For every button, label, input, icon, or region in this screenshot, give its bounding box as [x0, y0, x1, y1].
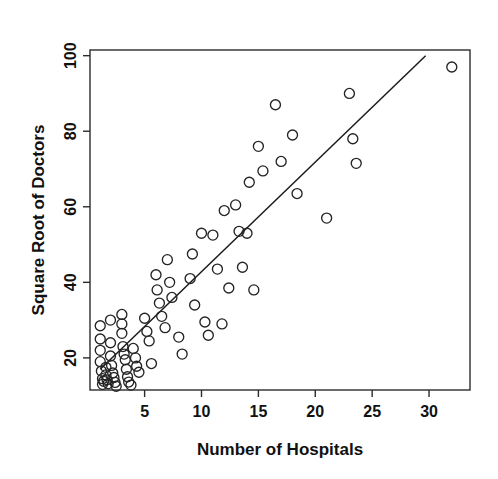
data-point — [196, 228, 206, 238]
data-point — [126, 380, 136, 390]
y-tick-label: 60 — [62, 198, 79, 216]
data-point — [157, 311, 167, 321]
data-point — [208, 230, 218, 240]
y-axis-title: Square Root of Doctors — [29, 125, 48, 316]
x-tick-label: 25 — [363, 403, 381, 420]
data-point — [95, 345, 105, 355]
data-point — [117, 319, 127, 329]
data-point — [217, 319, 227, 329]
data-point — [144, 336, 154, 346]
data-point — [351, 158, 361, 168]
data-point — [270, 100, 280, 110]
data-point — [165, 277, 175, 287]
data-point — [447, 62, 457, 72]
data-point — [187, 249, 197, 259]
data-point — [212, 264, 222, 274]
data-point — [288, 130, 298, 140]
data-point — [151, 270, 161, 280]
data-point — [160, 323, 170, 333]
scatter-plot-figure: Square Root of Doctors Number of Hospita… — [0, 0, 498, 479]
data-point — [95, 334, 105, 344]
data-point — [120, 355, 130, 365]
data-point — [146, 359, 156, 369]
fit-line — [100, 56, 425, 370]
x-axis-title: Number of Hospitals — [197, 440, 363, 459]
data-point — [95, 321, 105, 331]
data-point — [134, 367, 144, 377]
data-points — [95, 62, 457, 391]
data-point — [162, 255, 172, 265]
y-tick-label: 20 — [62, 349, 79, 367]
data-point — [224, 283, 234, 293]
data-point — [348, 134, 358, 144]
data-point — [95, 357, 105, 367]
regression-line — [100, 56, 425, 370]
data-point — [292, 189, 302, 199]
x-axis-title-text: Number of Hospitals — [197, 440, 363, 459]
data-point — [258, 166, 268, 176]
x-tick-label: 10 — [193, 403, 211, 420]
data-point — [344, 88, 354, 98]
plot-frame — [90, 50, 470, 390]
data-point — [117, 309, 127, 319]
x-tick-label: 30 — [420, 403, 438, 420]
data-point — [231, 200, 241, 210]
y-tick-label: 100 — [62, 42, 79, 69]
data-point — [203, 330, 213, 340]
data-point — [117, 328, 127, 338]
data-point — [174, 332, 184, 342]
data-point — [154, 298, 164, 308]
data-point — [128, 343, 138, 353]
plot-canvas: Square Root of Doctors Number of Hospita… — [0, 0, 498, 479]
data-point — [276, 156, 286, 166]
data-point — [105, 338, 115, 348]
data-point — [142, 326, 152, 336]
x-axis-ticks: 51015202530 — [140, 390, 438, 420]
y-axis-ticks: 20406080100 — [62, 42, 90, 367]
data-point — [200, 317, 210, 327]
data-point — [219, 206, 229, 216]
x-tick-label: 5 — [140, 403, 149, 420]
data-point — [237, 262, 247, 272]
data-point — [152, 285, 162, 295]
data-point — [190, 300, 200, 310]
data-point — [253, 141, 263, 151]
y-tick-label: 80 — [62, 122, 79, 140]
data-point — [140, 313, 150, 323]
data-point — [105, 315, 115, 325]
data-point — [322, 213, 332, 223]
x-tick-label: 20 — [306, 403, 324, 420]
data-point — [249, 285, 259, 295]
data-point — [244, 177, 254, 187]
y-axis-title-text: Square Root of Doctors — [29, 125, 48, 316]
data-point — [177, 349, 187, 359]
y-tick-label: 40 — [62, 273, 79, 291]
x-tick-label: 15 — [249, 403, 267, 420]
